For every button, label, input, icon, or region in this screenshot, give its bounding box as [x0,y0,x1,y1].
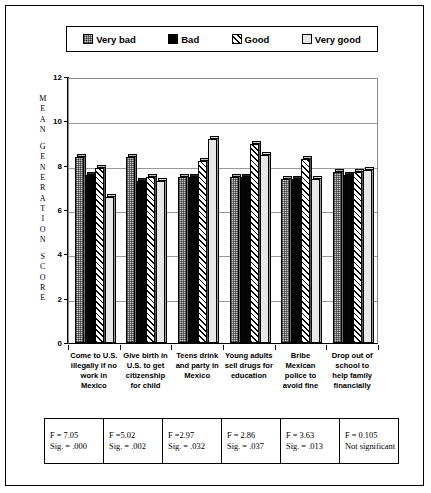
y-axis-title-letter: O [34,225,52,235]
bar-holder [281,79,291,343]
x-axis-label-line: Mexico [171,371,223,381]
stats-cell: F =2.97Sig. = .032 [163,419,222,463]
bar-holder [95,79,105,343]
y-axis-title-letter: M [34,94,52,104]
y-axis-title-letter: A [34,194,52,204]
x-axis-labels: Come to U.S.illegally if nowork inMexico… [68,351,378,409]
stats-cell: F = 3.63Sig. = .013 [281,419,340,463]
bar-holder [333,79,343,343]
chart-frame: Very bad Bad Good Very good MEANGENERATI… [5,5,424,486]
x-axis-label: Drop out ofschool tohelp familyfinancial… [326,351,378,391]
plot-area [68,78,378,344]
x-axis-label-line: illegally if no [68,361,120,371]
x-axis-label-line: police to [275,371,327,381]
plot-wrapper [68,78,378,344]
bar-holder [156,79,166,343]
y-axis-title-letter: R [34,283,52,293]
x-axis-label-line: Bribe [275,351,327,361]
y-axis-title-letter: S [34,252,52,262]
bar-very-bad [178,177,187,343]
bar-bad [291,179,300,343]
x-axis-label-line: citizenship [120,371,172,381]
bar-holder [353,79,363,343]
x-axis-label-line: help family [326,371,378,381]
legend-item-very-good: Very good [302,34,361,45]
bar-holder [301,79,311,343]
stats-table: F = 7.05Sig. = .000F =5.02Sig. = .002F =… [44,418,399,464]
bar-holder [343,79,353,343]
x-axis-label: Come to U.S.illegally if nowork inMexico [68,351,120,391]
bar-good [353,172,362,343]
y-axis-title-letter: A [34,115,52,125]
bar-holder [126,79,136,343]
y-axis-title-letter: C [34,262,52,272]
bar-very-good [363,170,372,343]
y-axis-tick-label: 6 [58,206,62,215]
bar-very-bad [126,157,135,343]
stats-f-value: F =5.02 [109,430,162,441]
bar-holder [260,79,270,343]
x-axis-label-line: avoid fine [275,381,327,391]
legend-swatch-good-icon [232,34,242,44]
x-axis-label-line: Drop out of [326,351,378,361]
x-axis-label-line: work in [68,371,120,381]
legend-label-bad: Bad [181,34,199,45]
stats-sig-value: Sig. = .000 [50,441,103,452]
x-axis-label-line: Come to U.S. [68,351,120,361]
bar-good [95,168,104,343]
bar-very-bad [230,177,239,343]
bar-holder [136,79,146,343]
x-axis-tick [223,345,224,350]
bar-group [327,79,378,343]
bar-good [250,144,259,344]
bar-bad [188,177,197,343]
stats-sig-value: Sig. = .013 [286,441,339,452]
x-axis-label: BribeMexicanpolice toavoid fine [275,351,327,391]
stats-cell: F = 0.105Not significant [340,419,398,463]
bar-holder [230,79,240,343]
legend-label-very-bad: Very bad [96,34,136,45]
legend-swatch-very-bad-icon [83,34,93,44]
bar-holder [250,79,260,343]
bar-side-face [269,152,271,343]
bar-holder [178,79,188,343]
bar-very-good [208,139,217,343]
stats-sig-value: Sig. = .032 [168,441,221,452]
x-axis-label-line: Give birth in [120,351,172,361]
bar-group [69,79,121,343]
y-axis-tick-label: 10 [53,117,62,126]
x-axis-label-line: Mexico [68,381,120,391]
x-axis-label-line: and party in [171,361,223,371]
bar-good [198,161,207,343]
stats-sig-value: Sig. = .037 [227,441,280,452]
bar-very-good [105,197,114,343]
y-axis-tick-label: 4 [58,250,62,259]
x-axis-label: Teens drinkand party inMexico [171,351,223,381]
bar-group [172,79,224,343]
y-axis-title-letter: N [34,235,52,245]
bar-bad [240,177,249,343]
x-axis-label-line: for child [120,381,172,391]
y-axis-tick-label: 8 [58,161,62,170]
bar-bad [343,175,352,343]
bar-holder [208,79,218,343]
x-axis-tick [120,345,121,350]
y-axis-tick-label: 0 [58,339,62,348]
y-axis-title-letter: R [34,183,52,193]
y-axis-tick-label: 2 [58,294,62,303]
bar-very-good [311,179,320,343]
legend-swatch-very-good-icon [302,34,312,44]
x-axis-label-line: Teens drink [171,351,223,361]
legend-swatch-bad-icon [168,34,178,44]
stats-sig-value: Not significant [345,441,398,452]
stats-f-value: F = 3.63 [286,430,339,441]
bar-side-face [372,167,374,343]
x-axis-label-line: Mexican [275,361,327,371]
stats-f-value: F = 2.86 [227,430,280,441]
legend-item-bad: Bad [168,34,199,45]
legend-label-good: Good [245,34,270,45]
y-axis-title-letter: T [34,204,52,214]
bar-holder [146,79,156,343]
x-axis-label: Give birth inU.S. to getcitizenshipfor c… [120,351,172,391]
legend-item-good: Good [232,34,270,45]
